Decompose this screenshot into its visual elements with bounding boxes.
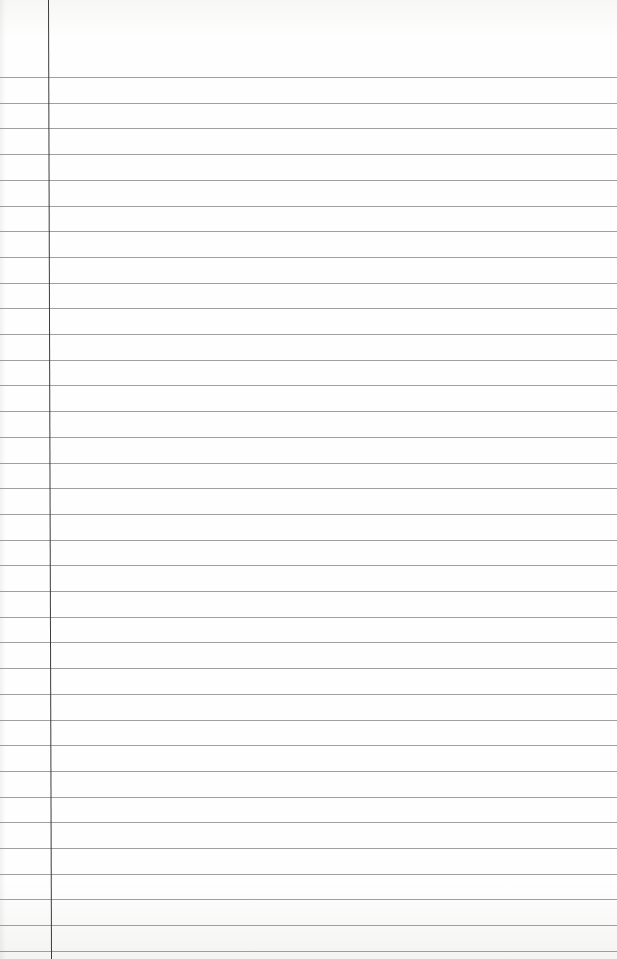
ruled-line — [0, 463, 617, 464]
ruled-line — [0, 797, 617, 798]
ruled-line — [0, 617, 617, 618]
ruled-line — [0, 668, 617, 669]
ruled-line — [0, 257, 617, 258]
ruled-line — [0, 848, 617, 849]
ruled-line — [0, 411, 617, 412]
margin-line — [48, 0, 52, 959]
ruled-line — [0, 925, 617, 926]
notebook-page — [0, 0, 617, 959]
ruled-line — [0, 951, 617, 952]
ruled-line — [0, 591, 617, 592]
ruled-line — [0, 385, 617, 386]
ruled-line — [0, 720, 617, 721]
ruled-line — [0, 540, 617, 541]
ruled-line — [0, 154, 617, 155]
ruled-line — [0, 745, 617, 746]
ruled-line — [0, 899, 617, 900]
ruled-line — [0, 694, 617, 695]
ruled-line — [0, 488, 617, 489]
ruled-line — [0, 874, 617, 875]
ruled-line — [0, 514, 617, 515]
ruled-line — [0, 822, 617, 823]
ruled-line — [0, 77, 617, 78]
ruled-line — [0, 360, 617, 361]
ruled-line — [0, 565, 617, 566]
ruled-line — [0, 103, 617, 104]
ruled-line — [0, 231, 617, 232]
ruled-line — [0, 180, 617, 181]
ruled-line — [0, 206, 617, 207]
ruled-line — [0, 437, 617, 438]
page-edge-shadow — [0, 0, 6, 959]
ruled-line — [0, 771, 617, 772]
ruled-line — [0, 642, 617, 643]
ruled-line — [0, 128, 617, 129]
ruled-line — [0, 283, 617, 284]
ruled-line — [0, 334, 617, 335]
ruled-line — [0, 308, 617, 309]
